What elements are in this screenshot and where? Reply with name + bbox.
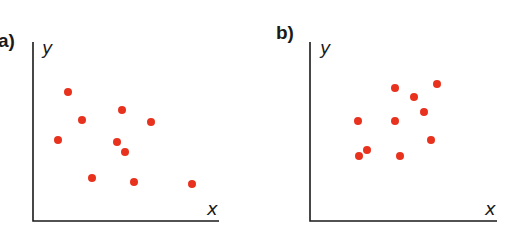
data-point [54, 136, 62, 144]
data-point [420, 108, 428, 116]
data-point [113, 138, 121, 146]
data-point [427, 136, 435, 144]
data-point [188, 180, 196, 188]
scatter-panel-a: yx [33, 37, 219, 221]
data-point [391, 84, 399, 92]
data-point [78, 116, 86, 124]
data-point [354, 117, 362, 125]
x-axis-label: x [206, 198, 218, 219]
y-axis-label: y [319, 37, 331, 58]
scatter-plots: yxyx [0, 0, 505, 249]
axes [33, 42, 219, 221]
data-point [433, 80, 441, 88]
scatter-panel-b: yx [310, 37, 497, 221]
axes [310, 42, 497, 221]
data-point [363, 146, 371, 154]
data-point [391, 117, 399, 125]
data-point [118, 106, 126, 114]
data-point [88, 174, 96, 182]
data-point [130, 178, 138, 186]
data-point [396, 152, 404, 160]
data-point [64, 88, 72, 96]
data-point [121, 148, 129, 156]
x-axis-label: x [484, 198, 496, 219]
data-point [147, 118, 155, 126]
data-point [410, 93, 418, 101]
data-point [355, 152, 363, 160]
y-axis-label: y [41, 37, 53, 58]
